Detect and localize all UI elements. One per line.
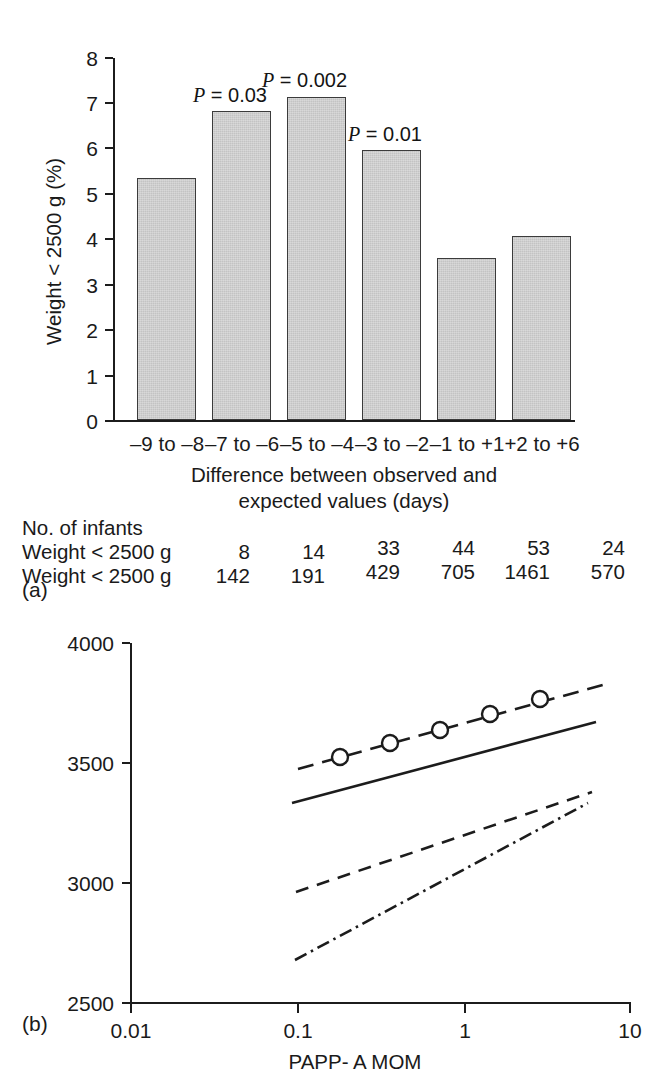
bar-fill bbox=[513, 237, 570, 419]
x-axis-title-line2: expected values (days) bbox=[122, 489, 566, 513]
counts-row-0-value-1: 14 bbox=[267, 540, 325, 564]
y-tick-mark-2 bbox=[105, 329, 113, 331]
series-circles-marker-3 bbox=[482, 706, 498, 722]
y-tick-mark-7 bbox=[105, 102, 113, 104]
series-circles-marker-4 bbox=[532, 691, 548, 707]
p-symbol: P bbox=[348, 123, 360, 145]
panel-b-line-chart: 4000 3500 3000 2500 0.01 0.1 1 10 PAPP- … bbox=[0, 600, 670, 1086]
p-value-text: = 0.03 bbox=[205, 84, 267, 106]
p-value-text: = 0.01 bbox=[360, 123, 422, 145]
panel-a-bar-chart: 8 7 6 5 4 3 2 1 0 Weight < 2500 g (%) bbox=[0, 0, 670, 600]
bar-cat-1 bbox=[212, 111, 271, 420]
y-tick-mark-6 bbox=[105, 147, 113, 149]
y-tick-mark-1 bbox=[105, 375, 113, 377]
figure-container: 8 7 6 5 4 3 2 1 0 Weight < 2500 g (%) bbox=[0, 0, 670, 1086]
counts-row-1-value-2: 429 bbox=[342, 560, 400, 584]
x-axis-line-a bbox=[113, 420, 575, 422]
counts-table-title: No. of infants bbox=[22, 516, 143, 540]
bar-cat-4 bbox=[437, 258, 496, 420]
y-tick-label-1: 1 bbox=[68, 365, 98, 389]
series-dashed-line bbox=[296, 792, 592, 892]
counts-row-0-value-0: 8 bbox=[192, 540, 250, 564]
bar-cat-5 bbox=[512, 236, 571, 420]
y-tick-label-8: 8 bbox=[68, 47, 98, 71]
p-value-annotation-cat-2: P = 0.002 bbox=[262, 69, 347, 92]
y-axis-title-a: Weight < 2500 g (%) bbox=[42, 158, 66, 345]
x-tick-label-5: +2 to +6 bbox=[487, 432, 597, 456]
y-axis-line-a bbox=[113, 58, 115, 422]
y-tick-mark-0 bbox=[105, 420, 113, 422]
p-value-annotation-cat-1: P = 0.03 bbox=[193, 84, 267, 107]
panel-label-a: (a) bbox=[22, 578, 48, 602]
series-circles-marker-2 bbox=[432, 722, 448, 738]
counts-row-0-value-4: 53 bbox=[492, 536, 550, 560]
bar-cat-0 bbox=[137, 178, 196, 420]
counts-row-1-value-0: 142 bbox=[192, 564, 250, 588]
y-tick-label-4: 4 bbox=[68, 228, 98, 252]
p-value-annotation-cat-3: P = 0.01 bbox=[348, 123, 422, 146]
series-circles-marker-1 bbox=[382, 735, 398, 751]
bar-fill bbox=[438, 259, 495, 419]
series-dash-dot-line bbox=[295, 803, 588, 960]
y-tick-mark-3 bbox=[105, 284, 113, 286]
counts-row-1-value-5: 570 bbox=[567, 560, 625, 584]
p-value-text: = 0.002 bbox=[274, 69, 347, 91]
counts-table: No. of infants Weight < 2500 g 8 14 33 4… bbox=[0, 516, 670, 606]
y-tick-label-6: 6 bbox=[68, 137, 98, 161]
y-tick-mark-4 bbox=[105, 238, 113, 240]
y-tick-label-0: 0 bbox=[68, 410, 98, 434]
p-symbol: P bbox=[262, 69, 274, 91]
counts-row-0-value-2: 33 bbox=[342, 536, 400, 560]
counts-row-1-value-4: 1461 bbox=[492, 560, 550, 584]
y-tick-mark-8 bbox=[105, 57, 113, 59]
y-tick-label-7: 7 bbox=[68, 92, 98, 116]
y-tick-label-5: 5 bbox=[68, 183, 98, 207]
bar-fill bbox=[288, 98, 345, 419]
counts-row-0-value-5: 24 bbox=[567, 536, 625, 560]
counts-row-0-value-3: 44 bbox=[417, 536, 475, 560]
panel-b-plot-area bbox=[0, 600, 670, 1086]
bar-cat-3 bbox=[362, 150, 421, 420]
p-symbol: P bbox=[193, 84, 205, 106]
bar-fill bbox=[363, 151, 420, 419]
series-circles-marker-0 bbox=[332, 749, 348, 765]
bar-fill bbox=[138, 179, 195, 419]
panel-label-b: (b) bbox=[22, 1012, 48, 1036]
bar-fill bbox=[213, 112, 270, 419]
counts-row-1-value-1: 191 bbox=[267, 564, 325, 588]
bar-cat-2 bbox=[287, 97, 346, 420]
y-tick-label-2: 2 bbox=[68, 319, 98, 343]
counts-row-1-value-3: 705 bbox=[417, 560, 475, 584]
y-tick-mark-5 bbox=[105, 193, 113, 195]
counts-row-0-label: Weight < 2500 g bbox=[22, 540, 172, 564]
x-axis-title-line1: Difference between observed and bbox=[122, 463, 566, 487]
y-tick-label-3: 3 bbox=[68, 274, 98, 298]
